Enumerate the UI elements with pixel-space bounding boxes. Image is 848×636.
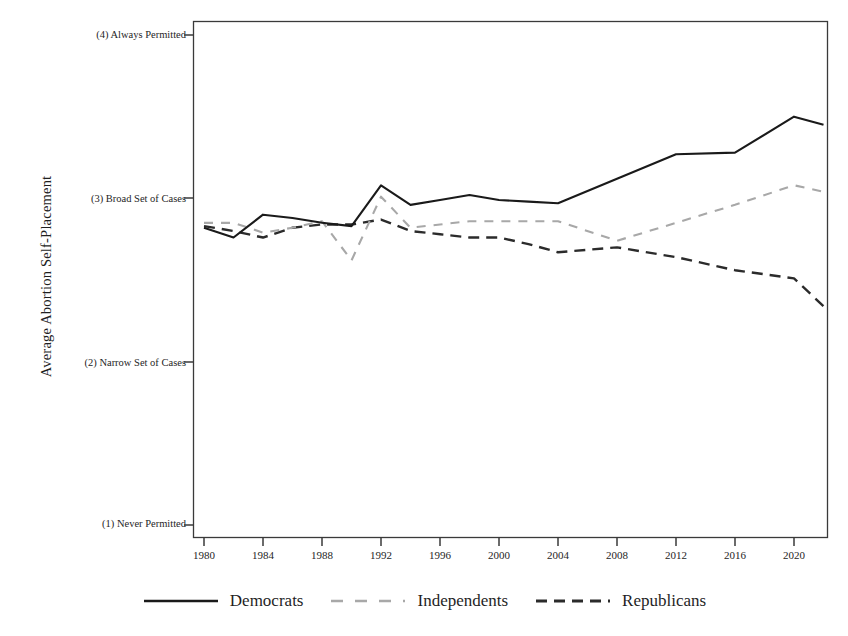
legend-label-independents: Independents: [417, 592, 508, 609]
plot-area: [0, 0, 848, 636]
x-axis-ticks: [204, 538, 794, 547]
legend-item-republicans: Republicans: [534, 592, 706, 609]
series-line-democrats: [204, 117, 824, 238]
legend-line-solid-icon: [142, 594, 220, 608]
y-axis-ticks: [184, 35, 194, 525]
legend-item-independents: Independents: [329, 592, 508, 609]
plot-frame: [194, 22, 828, 538]
data-series-group: [204, 117, 824, 306]
legend-line-dashed-dark-icon: [534, 594, 612, 608]
legend-item-democrats: Democrats: [142, 592, 304, 609]
legend-line-dashed-light-icon: [329, 594, 407, 608]
legend-label-democrats: Democrats: [230, 592, 304, 609]
legend-label-republicans: Republicans: [622, 592, 706, 609]
chart-legend: Democrats Independents Republicans: [0, 592, 848, 609]
chart-figure: Average Abortion Self-Placement (4) Alwa…: [0, 0, 848, 636]
series-line-republicans: [204, 220, 824, 307]
series-line-independents: [204, 185, 824, 260]
